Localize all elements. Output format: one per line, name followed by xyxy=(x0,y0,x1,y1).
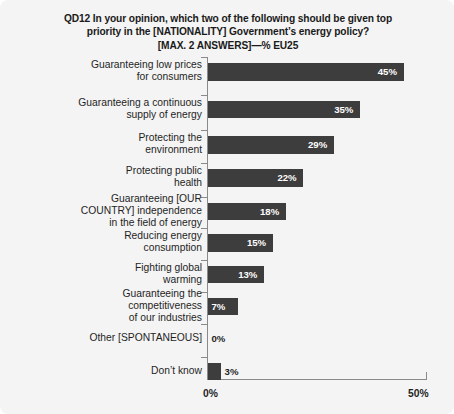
y-axis-tick xyxy=(201,357,208,358)
x-axis-tick-50 xyxy=(426,372,427,380)
category-label: Reducing energy consumption xyxy=(2,230,202,255)
y-axis-tick xyxy=(201,163,208,164)
bar-value-label: 35% xyxy=(334,105,353,115)
x-axis-line xyxy=(207,379,427,380)
chart-card: QD12 In your opinion, which two of the f… xyxy=(0,0,454,414)
bar-value-label: 18% xyxy=(260,207,279,217)
bar-value-label: 0% xyxy=(212,334,226,344)
bar-value-label: 7% xyxy=(212,302,226,312)
category-label: Other [SPONTANEOUS] xyxy=(2,332,202,344)
bar-value-label: 15% xyxy=(247,238,266,248)
category-label: Protecting the environment xyxy=(2,132,202,157)
y-axis-tick xyxy=(201,57,208,58)
x-axis-tick-label-min: 0% xyxy=(203,389,218,399)
y-axis-tick xyxy=(201,95,208,96)
category-label: Fighting global warming xyxy=(2,262,202,287)
plot-area: 0% 50% Guaranteeing low prices for consu… xyxy=(0,0,454,414)
bar-value-label: 13% xyxy=(238,270,257,280)
bar-value-label: 29% xyxy=(308,140,327,150)
bar xyxy=(208,363,221,381)
category-label: Guaranteeing [OUR COUNTRY] independence … xyxy=(2,193,202,230)
bar-value-label: 22% xyxy=(277,173,296,183)
category-label: Don’t know xyxy=(2,365,202,377)
category-label: Guaranteeing a continuous supply of ener… xyxy=(2,97,202,122)
y-axis-tick xyxy=(201,130,208,131)
category-label: Guaranteeing low prices for consumers xyxy=(2,59,202,84)
y-axis-tick xyxy=(201,228,208,229)
category-label: Protecting public health xyxy=(2,165,202,190)
x-axis-tick-label-max: 50% xyxy=(408,389,429,399)
y-axis-tick xyxy=(201,197,208,198)
bar xyxy=(208,63,404,81)
bar-value-label: 3% xyxy=(225,367,239,377)
y-axis-tick xyxy=(201,260,208,261)
y-axis-tick xyxy=(201,324,208,325)
y-axis-tick xyxy=(201,292,208,293)
bar-value-label: 45% xyxy=(378,67,397,77)
category-label: Guaranteeing the competitiveness of our … xyxy=(2,288,202,325)
